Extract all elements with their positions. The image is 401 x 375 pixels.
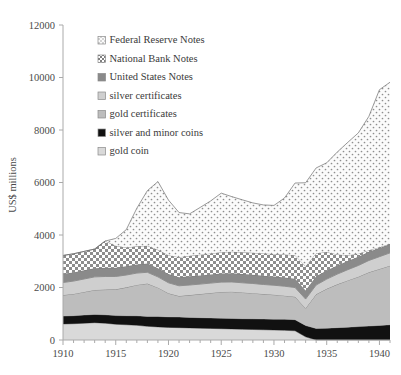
y-tick-label: 12000 <box>29 20 55 31</box>
chart-canvas: 0200040006000800010000120001910191519201… <box>0 0 401 375</box>
legend-swatch-united-states-notes <box>98 74 106 82</box>
y-tick-label: 2000 <box>34 282 55 293</box>
legend-swatch-national-bank-notes <box>98 55 106 63</box>
legend-label-united-states-notes: United States Notes <box>110 71 193 82</box>
legend-swatch-silver-and-minor-coins <box>98 129 106 137</box>
legend-swatch-silver-certificates <box>98 92 106 100</box>
x-tick-label: 1940 <box>369 348 390 359</box>
x-tick-label: 1910 <box>53 348 74 359</box>
chart-legend: Federal Reserve NotesNational Bank Notes… <box>98 34 205 156</box>
legend-label-federal-reserve-notes: Federal Reserve Notes <box>110 34 205 45</box>
x-tick-label: 1930 <box>263 348 284 359</box>
y-tick-label: 4000 <box>34 230 55 241</box>
legend-label-gold-certificates: gold certificates <box>110 108 177 119</box>
y-axis-title: US$ millions <box>7 157 18 213</box>
x-tick-label: 1920 <box>158 348 179 359</box>
legend-label-silver-and-minor-coins: silver and minor coins <box>110 127 204 138</box>
x-tick-label: 1935 <box>316 348 337 359</box>
y-tick-label: 10000 <box>29 72 55 83</box>
x-tick-label: 1925 <box>211 348 232 359</box>
x-tick-label: 1915 <box>105 348 126 359</box>
legend-swatch-federal-reserve-notes <box>98 37 106 45</box>
stacked-area-chart: 0200040006000800010000120001910191519201… <box>0 0 401 375</box>
legend-swatch-gold-certificates <box>98 111 106 119</box>
y-tick-label: 6000 <box>34 177 55 188</box>
legend-swatch-gold-coin <box>98 148 106 156</box>
area-series-group <box>63 82 390 340</box>
legend-label-silver-certificates: silver certificates <box>110 90 182 101</box>
y-tick-label: 8000 <box>34 125 55 136</box>
legend-label-gold-coin: gold coin <box>110 145 150 156</box>
y-tick-label: 0 <box>50 335 55 346</box>
legend-label-national-bank-notes: National Bank Notes <box>110 53 198 64</box>
